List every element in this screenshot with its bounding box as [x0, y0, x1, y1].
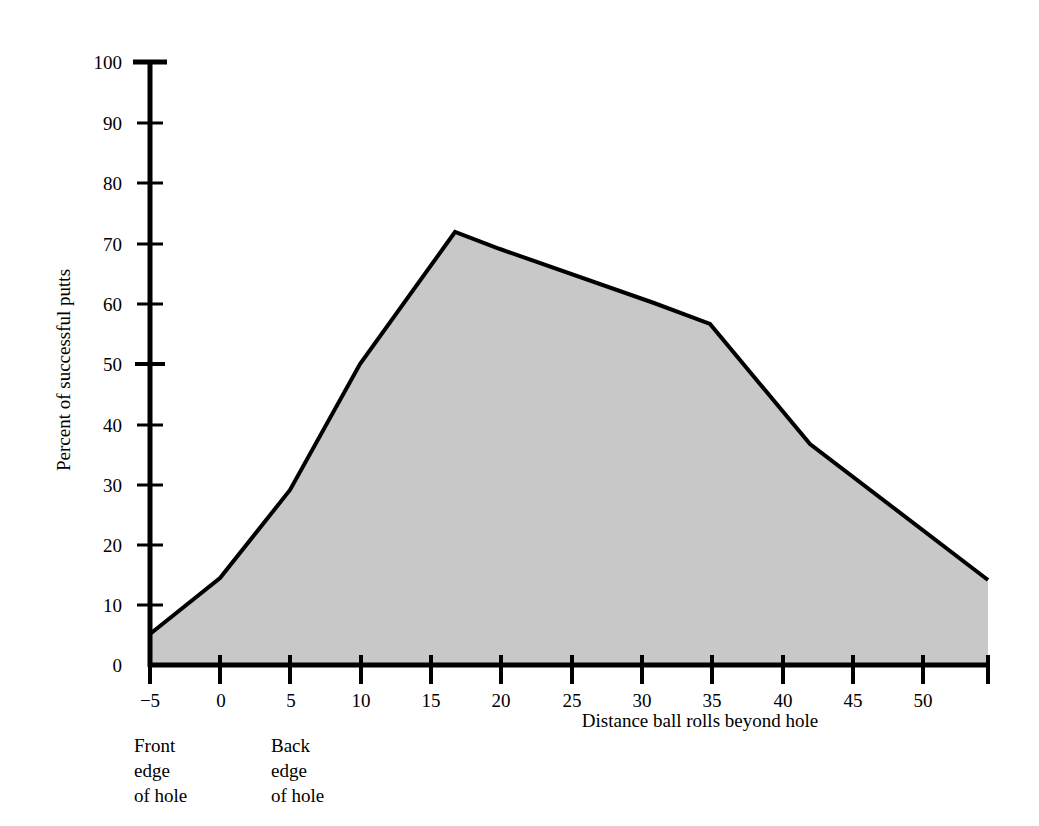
chart-container: 100 90 80 70 60 50 40 30 20 10 0 −5 0 5 … — [0, 0, 1039, 826]
area-chart: 100 90 80 70 60 50 40 30 20 10 0 −5 0 5 … — [0, 0, 1039, 826]
x-axis-tick-labels: −5 0 5 10 15 20 25 30 35 40 45 50 — [140, 690, 933, 711]
back-edge-line2: edge — [271, 760, 307, 781]
x-label-30: 30 — [633, 690, 652, 711]
y-label-80: 80 — [103, 173, 122, 194]
area-fill — [150, 232, 988, 665]
y-label-50: 50 — [103, 354, 122, 375]
y-label-60: 60 — [103, 294, 122, 315]
y-label-0: 0 — [113, 655, 123, 676]
x-label-40: 40 — [774, 690, 793, 711]
x-label-15: 15 — [422, 690, 441, 711]
back-edge-note: Back edge of hole — [271, 735, 324, 806]
y-axis-tick-labels: 100 90 80 70 60 50 40 30 20 10 0 — [94, 52, 123, 676]
y-label-100: 100 — [94, 52, 123, 73]
front-edge-line2: edge — [134, 760, 170, 781]
y-label-30: 30 — [103, 475, 122, 496]
x-label-50: 50 — [914, 690, 933, 711]
front-edge-note: Front edge of hole — [134, 735, 187, 806]
x-label-20: 20 — [492, 690, 511, 711]
y-label-90: 90 — [103, 113, 122, 134]
front-edge-line1: Front — [134, 735, 176, 756]
y-label-40: 40 — [103, 415, 122, 436]
front-edge-line3: of hole — [134, 785, 187, 806]
x-label-neg5: −5 — [140, 690, 160, 711]
y-label-10: 10 — [103, 595, 122, 616]
x-label-0: 0 — [216, 690, 226, 711]
y-label-70: 70 — [103, 234, 122, 255]
x-label-35: 35 — [703, 690, 722, 711]
back-edge-line1: Back — [271, 735, 311, 756]
x-label-25: 25 — [563, 690, 582, 711]
x-label-10: 10 — [352, 690, 371, 711]
x-label-45: 45 — [844, 690, 863, 711]
y-label-20: 20 — [103, 535, 122, 556]
x-label-5: 5 — [286, 690, 296, 711]
back-edge-line3: of hole — [271, 785, 324, 806]
y-axis-title: Percent of successful putts — [53, 269, 74, 471]
x-axis-title: Distance ball rolls beyond hole — [582, 710, 818, 731]
